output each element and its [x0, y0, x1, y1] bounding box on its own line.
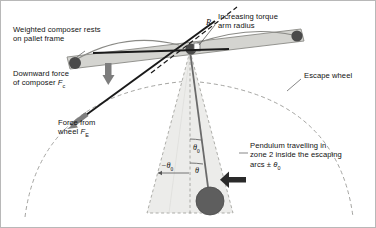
thick-down-arrow [103, 63, 115, 85]
pallet-pivot-right [291, 30, 302, 41]
pendulum-zone-subscript: 0 [277, 164, 280, 170]
pendulum-bob [196, 187, 224, 215]
torque-label-line2: arm radius [218, 21, 255, 30]
escapement-diagram: Weighted composer rests on pallet frame … [0, 0, 376, 228]
composer-label-line2: on pallet frame [13, 34, 64, 43]
theta0-subscript: 0 [197, 148, 200, 154]
torque-label-line1: Increasing torque [218, 12, 278, 21]
wheel-force-label: Force from wheel FE [58, 118, 95, 140]
composer-label: Weighted composer rests on pallet frame [13, 25, 101, 44]
theta0-label: θ0 [193, 143, 200, 154]
composer-label-line1: Weighted composer rests [13, 25, 101, 34]
negative-theta0-label: −θ0 [161, 161, 173, 172]
downward-force-line1: Downward force [13, 69, 69, 78]
wheel-force-line1: Force from [58, 118, 95, 127]
downward-force-subscript: c [63, 83, 66, 89]
downward-force-line2: of composer [13, 78, 58, 87]
downward-force-label: Downward force of composer Fc [13, 69, 69, 91]
escape-wheel-label: Escape wheel [304, 71, 352, 80]
escape-wheel-leader [287, 79, 301, 91]
torque-label: Increasing torque arm radius [218, 12, 278, 31]
pendulum-zone-line2: zone 2 inside the escaping [250, 150, 342, 159]
wheel-force-line2: wheel [58, 127, 80, 136]
negative-theta0-subscript: 0 [171, 166, 174, 172]
torque-radius-symbol: R [206, 18, 211, 27]
pendulum-zone-line1: Pendulum travelling in [250, 141, 326, 150]
theta-label: θ [195, 166, 199, 175]
pendulum-zone-line3: arcs ± [250, 160, 273, 169]
pendulum-zone-label: Pendulum travelling in zone 2 inside the… [250, 141, 342, 173]
wheel-force-subscript: E [85, 132, 89, 138]
